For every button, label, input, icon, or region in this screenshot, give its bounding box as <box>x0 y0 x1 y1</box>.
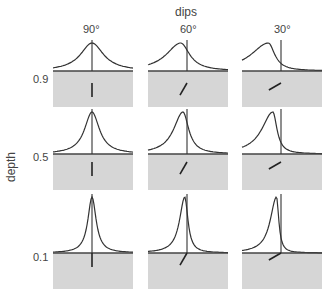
ground-block <box>148 253 228 289</box>
anomaly-curve <box>148 112 228 153</box>
anomaly-curve <box>148 43 228 70</box>
ground-block <box>148 71 228 107</box>
anomaly-curve <box>53 43 133 68</box>
anomaly-curve <box>242 112 322 154</box>
ground-block <box>53 253 133 289</box>
anomaly-curve <box>53 197 133 252</box>
anomaly-curve <box>53 112 133 152</box>
ground-block <box>242 253 322 289</box>
anomaly-curve <box>242 197 322 253</box>
ground-block <box>242 154 322 190</box>
anomaly-curve <box>242 43 322 70</box>
ground-block <box>53 71 133 107</box>
anomaly-curve <box>148 197 228 252</box>
ground-block <box>53 154 133 190</box>
ground-block <box>148 154 228 190</box>
ground-block <box>242 71 322 107</box>
dip-depth-anomaly-grid <box>0 0 333 302</box>
